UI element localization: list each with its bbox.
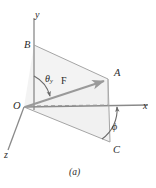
x-axis-label: x — [143, 101, 147, 111]
point-label-origin: O — [13, 101, 21, 112]
theta-subscript: y — [50, 77, 53, 84]
force-vector-label: F — [61, 76, 67, 86]
z-axis — [8, 107, 24, 150]
y-axis-label: y — [35, 10, 39, 20]
z-axis-label: z — [4, 150, 8, 160]
vector-diagram-svg — [0, 0, 156, 188]
point-label-c: C — [113, 145, 120, 156]
figure-container: y x z B A C O F θy ϕ (a) — [0, 0, 156, 188]
point-label-b: B — [24, 40, 30, 51]
figure-caption: (a) — [69, 168, 80, 178]
theta-y-angle-label: θy — [45, 74, 53, 85]
phi-angle-label: ϕ — [112, 122, 117, 132]
point-label-a: A — [114, 68, 120, 79]
